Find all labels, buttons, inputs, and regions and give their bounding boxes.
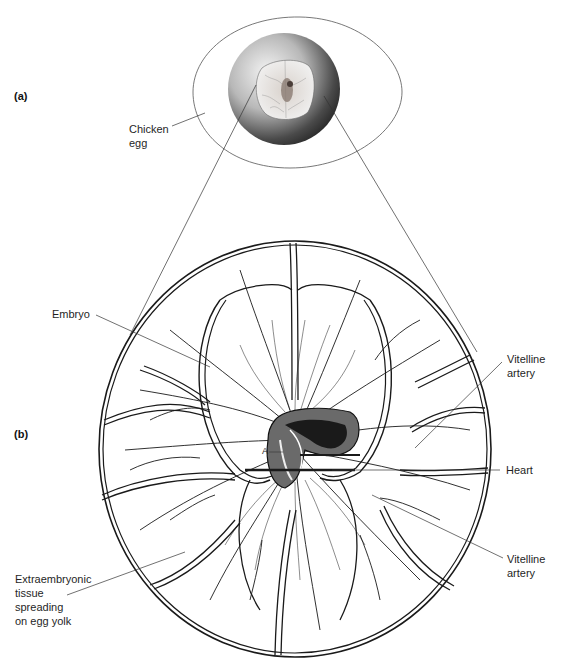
chicken-egg-leader <box>172 113 205 126</box>
extraembryonic-tissue-label: Extraembryonic tissue spreading on egg y… <box>15 572 91 628</box>
embryo-label: Embryo <box>52 307 90 321</box>
chicken-egg-label: Chicken egg <box>129 122 169 150</box>
figure-canvas: (a) Chicken egg (b) Embryo Vitelline art… <box>0 0 561 663</box>
vitelline-artery-upper-label: Vitelline artery <box>507 352 545 380</box>
marker-a-label: A <box>262 444 268 458</box>
vitelline-artery-upper-leader <box>415 362 502 448</box>
egg-illustration <box>193 17 402 168</box>
vitelline-artery-lower-label: Vitelline artery <box>507 552 545 580</box>
embryo-leader <box>96 315 210 367</box>
panel-a-tag: (a) <box>14 90 27 102</box>
panel-b-tag: (b) <box>14 428 28 440</box>
heart-label: Heart <box>506 463 533 477</box>
diagram-artwork <box>0 0 561 663</box>
